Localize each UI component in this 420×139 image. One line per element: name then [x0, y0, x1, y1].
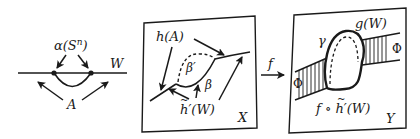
- h-tilde-arrow-up: [196, 85, 198, 98]
- alpha-arrow-left: [57, 55, 66, 68]
- beta-prime-label: β′: [185, 61, 196, 75]
- w-label: W: [110, 56, 125, 71]
- phi-right-label: Φ: [392, 42, 402, 56]
- a-label: A: [66, 97, 76, 112]
- left-dot: [51, 70, 56, 75]
- x-left-segment: [150, 84, 176, 101]
- phi-left-label: Φ: [293, 77, 303, 91]
- f-label: f: [267, 56, 275, 71]
- f-circ-h-tilde: ~: [337, 93, 345, 104]
- g-w-label: g(W): [355, 16, 387, 31]
- alpha-arrow-right: [78, 55, 88, 68]
- left-panel: α(Sn) W A: [18, 37, 127, 112]
- h-tilde-arrow-right: [219, 57, 242, 100]
- map-f: f: [261, 56, 284, 75]
- alpha-label: α(Sn): [54, 37, 88, 53]
- a-arrow-left: [38, 82, 63, 100]
- gamma-label: γ: [318, 33, 326, 48]
- a-arrow-right: [82, 82, 108, 100]
- h-a-label: h(A): [156, 29, 184, 44]
- x-space-label: X: [237, 110, 248, 125]
- h-a-arrow-right: [194, 39, 224, 55]
- y-panel: γ g(W) Φ Φ f ∘ h′(W) ~ Y: [289, 8, 406, 133]
- diagram-svg: α(Sn) W A β′ β h(A) h′(W) ~ X f: [0, 0, 420, 139]
- beta-label: β: [204, 78, 212, 92]
- y-space-label: Y: [386, 111, 396, 126]
- h-a-arrow-down: [161, 47, 172, 90]
- x-panel: β′ β h(A) h′(W) ~ X: [142, 16, 257, 132]
- a-arc: [54, 73, 91, 87]
- topology-diagram: α(Sn) W A β′ β h(A) h′(W) ~ X f: [0, 0, 420, 139]
- gamma-blob: [325, 31, 364, 90]
- right-dot: [88, 70, 93, 75]
